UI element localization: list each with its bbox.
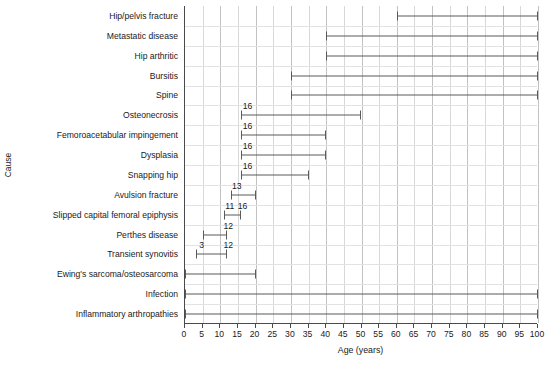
category-label: Spine xyxy=(156,90,178,100)
range-bar-end-cap xyxy=(537,31,538,40)
range-bar-start-cap xyxy=(241,131,242,140)
category-label: Snapping hip xyxy=(128,170,178,180)
category-label: Inflammatory arthropathies xyxy=(76,309,178,319)
x-axis-tick xyxy=(413,324,414,328)
range-bar-end-cap xyxy=(537,91,538,100)
category-label: Hip arthritic xyxy=(135,51,178,61)
x-axis-tick-label: 5 xyxy=(199,329,204,339)
gridline-horizontal xyxy=(185,264,537,265)
range-bar-start-cap xyxy=(224,210,225,219)
range-bar-start-cap xyxy=(185,310,186,319)
x-axis-tick xyxy=(519,324,520,328)
category-label: Slipped capital femoral epiphysis xyxy=(53,210,178,220)
x-axis-tick xyxy=(290,324,291,328)
x-axis-tick-label: 40 xyxy=(320,329,330,339)
range-bar-start-cap xyxy=(231,190,232,199)
range-bar xyxy=(397,15,538,16)
x-axis-tick xyxy=(537,324,538,328)
gridline-horizontal xyxy=(185,225,537,226)
x-axis-tick xyxy=(255,324,256,328)
x-axis-title: Age (years) xyxy=(184,345,537,355)
range-bar-start-cap xyxy=(185,270,186,279)
x-axis-tick xyxy=(184,324,185,328)
range-bar-end-cap xyxy=(325,131,326,140)
range-bar-start-cap xyxy=(196,250,197,259)
range-bar-start-cap xyxy=(185,290,186,299)
category-label: Dysplasia xyxy=(141,150,178,160)
range-bar xyxy=(196,254,228,255)
range-bar xyxy=(291,75,538,76)
range-bar-end-cap xyxy=(537,11,538,20)
x-axis-tick-label: 20 xyxy=(250,329,260,339)
x-axis-tick xyxy=(396,324,397,328)
x-axis-tick xyxy=(325,324,326,328)
x-axis-tick-label: 65 xyxy=(409,329,419,339)
bar-end-value-label: 12 xyxy=(224,221,234,231)
category-label: Transient synovitis xyxy=(107,249,178,259)
gridline-horizontal xyxy=(185,26,537,27)
category-label: Femoroacetabular impingement xyxy=(57,130,178,140)
gridline-horizontal xyxy=(185,86,537,87)
range-bar xyxy=(241,135,326,136)
range-bar-end-cap xyxy=(255,270,256,279)
range-bar xyxy=(241,115,361,116)
range-bar-start-cap xyxy=(241,111,242,120)
range-bar xyxy=(231,194,256,195)
bar-start-value-label: 16 xyxy=(243,121,253,131)
bar-start-value-label: 16 xyxy=(243,161,253,171)
gridline-horizontal xyxy=(185,125,537,126)
bar-start-value-label: 3 xyxy=(199,240,204,250)
x-axis-tick xyxy=(343,324,344,328)
x-axis-tick xyxy=(237,324,238,328)
x-axis-tick-label: 100 xyxy=(530,329,544,339)
x-axis-tick xyxy=(308,324,309,328)
x-axis-tick xyxy=(272,324,273,328)
category-label: Bursitis xyxy=(150,71,178,81)
range-bar-end-cap xyxy=(537,310,538,319)
range-bar-start-cap xyxy=(326,51,327,60)
plot-area: 1616161613111612312 xyxy=(184,6,537,324)
y-axis-title-text: Cause xyxy=(3,153,13,178)
category-label: Hip/pelvis fracture xyxy=(109,11,178,21)
x-axis-tick-label: 45 xyxy=(338,329,348,339)
range-chart: Cause Hip/pelvis fractureMetastatic dise… xyxy=(0,0,549,367)
x-axis-tick-label: 75 xyxy=(444,329,454,339)
gridline-horizontal xyxy=(185,66,537,67)
category-label: Ewing's sarcoma/osteosarcoma xyxy=(57,269,178,279)
range-bar xyxy=(326,35,538,36)
bar-start-value-label: 13 xyxy=(232,181,242,191)
x-axis-tick xyxy=(502,324,503,328)
range-bar-end-cap xyxy=(240,210,241,219)
range-bar xyxy=(224,214,242,215)
category-label: Perthes disease xyxy=(116,230,178,240)
x-axis-tick xyxy=(431,324,432,328)
category-label: Osteonecrosis xyxy=(123,110,178,120)
x-axis-tick-label: 60 xyxy=(391,329,401,339)
x-axis-tick-label: 35 xyxy=(303,329,313,339)
range-bar-end-cap xyxy=(537,71,538,80)
x-axis-tick-label: 55 xyxy=(373,329,383,339)
gridline-horizontal xyxy=(185,304,537,305)
range-bar xyxy=(203,234,228,235)
range-bar-end-cap xyxy=(308,170,309,179)
x-axis-tick xyxy=(202,324,203,328)
bar-start-value-label: 16 xyxy=(243,141,253,151)
gridline-horizontal xyxy=(185,284,537,285)
x-axis-tick xyxy=(219,324,220,328)
range-bar xyxy=(185,274,256,275)
category-label: Metastatic disease xyxy=(107,31,178,41)
bar-end-value-label: 12 xyxy=(224,240,234,250)
range-bar-start-cap xyxy=(291,71,292,80)
category-axis-labels: Hip/pelvis fractureMetastatic diseaseHip… xyxy=(16,0,182,330)
category-label: Avulsion fracture xyxy=(114,190,178,200)
gridline-horizontal xyxy=(185,46,537,47)
x-axis-tick-label: 90 xyxy=(497,329,507,339)
range-bar-end-cap xyxy=(255,190,256,199)
range-bar-end-cap xyxy=(537,51,538,60)
bar-start-value-label: 16 xyxy=(243,101,253,111)
gridline-horizontal xyxy=(185,105,537,106)
gridline-vertical xyxy=(538,6,539,323)
x-axis-tick-label: 95 xyxy=(515,329,525,339)
gridline-horizontal xyxy=(185,165,537,166)
x-axis-tick-label: 85 xyxy=(479,329,489,339)
